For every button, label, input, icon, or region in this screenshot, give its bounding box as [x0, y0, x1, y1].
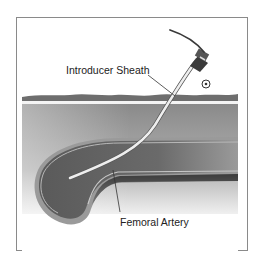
- introducer-sheath-label: Introducer Sheath: [66, 64, 149, 76]
- skin-layer: [22, 94, 238, 104]
- side-port-icon: [202, 80, 210, 88]
- femoral-artery-label: Femoral Artery: [120, 216, 189, 228]
- sheath-leader-line: [148, 75, 175, 96]
